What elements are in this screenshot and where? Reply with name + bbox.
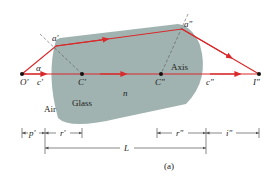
thick-lens-diagram: a' a" α O' c' C' C" c" I" Axis Glass Air… — [0, 0, 280, 184]
point-object — [20, 72, 24, 76]
dim-r-double: r" — [176, 128, 184, 138]
label-hit-left: a' — [52, 33, 60, 43]
point-center-left — [80, 72, 84, 76]
label-air: Air — [44, 104, 56, 114]
label-ray-right: c" — [206, 77, 214, 87]
dim-p-prime: p' — [28, 128, 37, 138]
label-angle: α — [36, 63, 41, 73]
figure-caption: (a) — [164, 161, 174, 171]
dim-length: L — [123, 143, 129, 153]
label-hit-right: a" — [184, 19, 193, 29]
label-center-right: C" — [155, 77, 165, 87]
label-image: I" — [252, 77, 260, 87]
point-center-right — [159, 72, 163, 76]
label-axis: Axis — [171, 62, 189, 72]
point-image — [257, 72, 261, 76]
label-ray-left: c' — [37, 77, 44, 87]
label-object: O' — [20, 77, 29, 87]
label-glass: Glass — [72, 98, 92, 108]
label-center-left: C' — [78, 77, 87, 87]
dim-r-prime: r' — [60, 128, 67, 138]
dimension-lines — [22, 128, 259, 154]
label-index: n — [123, 88, 128, 98]
dim-i-double: i" — [226, 128, 233, 138]
